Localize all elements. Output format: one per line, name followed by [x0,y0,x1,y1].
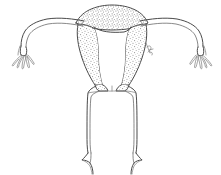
anatomical-diagram-svg [0,0,221,175]
illustration-canvas: Female Reproductive Organs pen-and-ink l… [0,0,221,175]
cervix [95,85,129,91]
